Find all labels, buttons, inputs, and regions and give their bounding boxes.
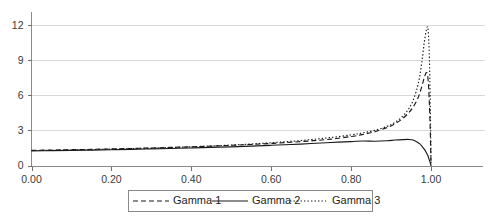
legend-label: Gamma 1 bbox=[173, 194, 221, 206]
y-tick-label: 9 bbox=[18, 54, 24, 66]
y-tick-label: 0 bbox=[18, 159, 24, 171]
legend-label: Gamma 3 bbox=[332, 194, 380, 206]
x-tick-labels: 0.000.200.400.600.801.00 bbox=[21, 173, 441, 185]
x-tick-label: 0.40 bbox=[181, 173, 202, 185]
x-tick-label: 1.00 bbox=[421, 173, 442, 185]
x-tick-label: 0.00 bbox=[21, 173, 42, 185]
y-tick-labels: 036912 bbox=[12, 19, 24, 171]
x-tick-label: 0.80 bbox=[341, 173, 362, 185]
x-tick-label: 0.20 bbox=[101, 173, 122, 185]
legend-label: Gamma 2 bbox=[252, 194, 300, 206]
y-tick-label: 3 bbox=[18, 124, 24, 136]
data-series-group bbox=[32, 27, 432, 166]
chart-container: 036912 0.000.200.400.600.801.00 Gamma 1G… bbox=[0, 0, 497, 218]
x-axis bbox=[32, 167, 484, 171]
series-line-gamma-1 bbox=[32, 73, 432, 166]
y-tick-label: 12 bbox=[12, 19, 24, 31]
gridlines bbox=[32, 26, 486, 131]
line-chart: 036912 0.000.200.400.600.801.00 Gamma 1G… bbox=[0, 0, 497, 218]
chart-legend: Gamma 1Gamma 2Gamma 3 bbox=[129, 191, 381, 212]
series-line-gamma-2 bbox=[32, 139, 432, 165]
series-line-gamma-3 bbox=[32, 27, 432, 166]
y-tick-label: 6 bbox=[18, 89, 24, 101]
y-axis bbox=[28, 12, 32, 167]
x-tick-label: 0.60 bbox=[261, 173, 282, 185]
